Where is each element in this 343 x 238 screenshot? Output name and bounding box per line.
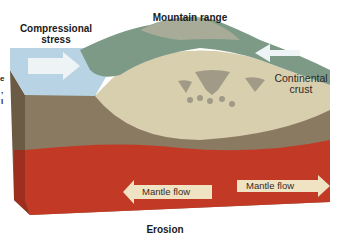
edge-fragment: ,: [1, 86, 3, 95]
mantle-flow-left-label: Mantle flow: [142, 186, 190, 197]
mantle-flow-right-label: Mantle flow: [246, 180, 294, 191]
compressional-stress-label: Compressional stress: [16, 23, 96, 45]
edge-fragment: e: [0, 74, 4, 83]
continental-crust-label: Continental crust: [268, 73, 334, 95]
crust-line: crust: [268, 84, 334, 95]
mountain-range-label: Mountain range: [140, 12, 240, 23]
edge-fragment: l: [1, 97, 3, 106]
stress-line: stress: [16, 34, 96, 45]
erosion-label: Erosion: [140, 224, 190, 235]
compressional-line: Compressional: [16, 23, 96, 34]
